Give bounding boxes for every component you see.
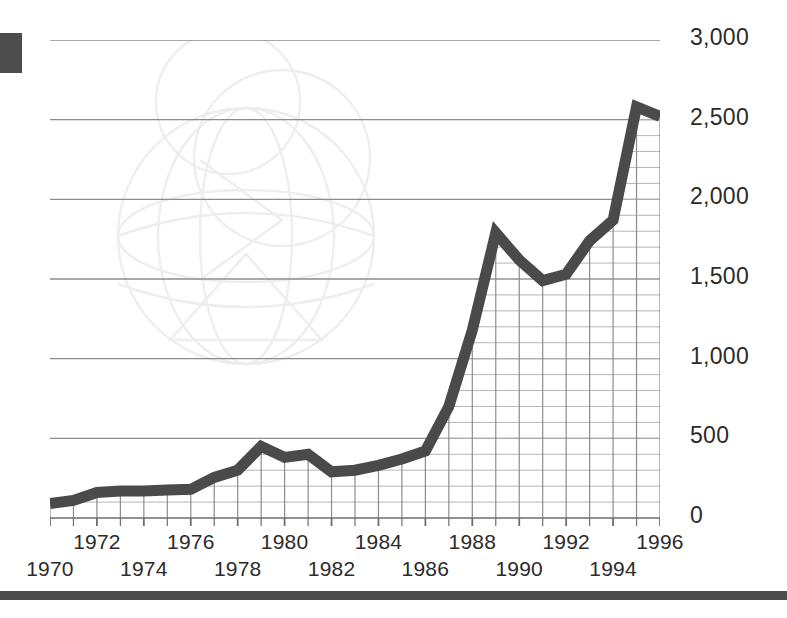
y-tick-label: 2,000 bbox=[690, 183, 749, 210]
x-tick-label-top: 1992 bbox=[542, 530, 590, 554]
x-tick-label-top: 1984 bbox=[355, 530, 403, 554]
x-tick-label-bottom: 1982 bbox=[308, 557, 356, 581]
x-tick-label-top: 1972 bbox=[73, 530, 121, 554]
x-tick-label-bottom: 1990 bbox=[495, 557, 543, 581]
y-tick-label: 3,000 bbox=[690, 24, 749, 51]
horizontal-gridlines bbox=[50, 40, 660, 438]
x-tick-label-top: 1980 bbox=[261, 530, 309, 554]
y-tick-label: 2,500 bbox=[690, 104, 749, 131]
x-tick-label-top: 1976 bbox=[167, 530, 215, 554]
x-axis-labels: 1972 1976 1980 1984 1988 1992 1996 1970 … bbox=[0, 524, 787, 584]
x-tick-label-bottom: 1970 bbox=[26, 557, 74, 581]
y-axis-labels: 3,000 2,500 2,000 1,500 1,000 500 0 bbox=[690, 0, 787, 560]
x-tick-label-top: 1996 bbox=[636, 530, 684, 554]
plot-area bbox=[50, 40, 660, 526]
left-edge-accent-block bbox=[0, 33, 22, 73]
x-tick-label-bottom: 1974 bbox=[120, 557, 168, 581]
x-tick-label-bottom: 1994 bbox=[589, 557, 637, 581]
globe-watermark bbox=[118, 40, 374, 364]
x-tick-label-bottom: 1978 bbox=[214, 557, 262, 581]
bottom-rule bbox=[0, 591, 787, 600]
x-tick-label-top: 1988 bbox=[449, 530, 497, 554]
x-tick-label-bottom: 1986 bbox=[402, 557, 450, 581]
line-chart-svg bbox=[50, 40, 660, 526]
y-tick-label: 1,500 bbox=[690, 263, 749, 290]
y-tick-label: 500 bbox=[690, 422, 729, 449]
y-tick-label: 1,000 bbox=[690, 343, 749, 370]
chart-root: 3,000 2,500 2,000 1,500 1,000 500 0 1972… bbox=[0, 0, 787, 618]
